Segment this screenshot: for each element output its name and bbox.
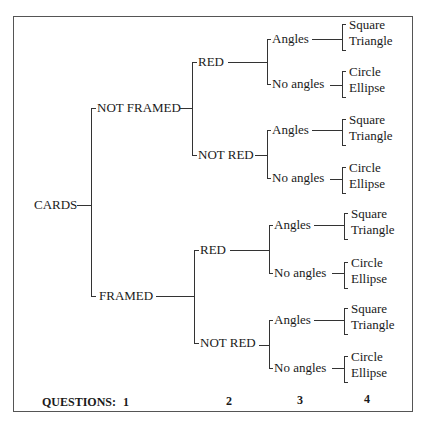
- leaf-square: Square: [349, 113, 385, 127]
- bracket: [342, 24, 346, 25]
- connector: [194, 250, 195, 343]
- connector: [267, 130, 271, 131]
- node-framed: FRAMED: [99, 289, 153, 303]
- connector: [267, 130, 268, 178]
- bracket: [344, 308, 348, 309]
- bracket: [342, 167, 346, 168]
- connector: [194, 343, 199, 344]
- bracket: [342, 193, 346, 194]
- connector: [332, 273, 344, 274]
- node-no-angles: No angles: [274, 266, 326, 280]
- connector: [330, 85, 342, 86]
- question-number-4: 4: [364, 392, 370, 406]
- node-red: RED: [200, 243, 226, 257]
- leaf-triangle: Triangle: [351, 318, 395, 332]
- leaf-circle: Circle: [349, 65, 381, 79]
- bracket: [344, 382, 348, 383]
- decision-tree-diagram: CARDS NOT FRAMED FRAMED RED NOT RED RED …: [0, 0, 428, 429]
- node-angles: Angles: [272, 32, 309, 46]
- node-no-angles: No angles: [274, 361, 326, 375]
- connector: [230, 250, 269, 251]
- node-not-framed: NOT FRAMED: [97, 101, 181, 115]
- bracket: [344, 262, 348, 263]
- bracket: [342, 71, 346, 72]
- leaf-ellipse: Ellipse: [349, 81, 385, 95]
- node-no-angles: No angles: [272, 171, 324, 185]
- connector: [269, 320, 273, 321]
- connector: [194, 250, 199, 251]
- bracket: [344, 239, 348, 240]
- node-red: RED: [198, 55, 224, 69]
- connector: [269, 368, 273, 369]
- questions-label: QUESTIONS:: [42, 395, 116, 409]
- bracket: [344, 308, 345, 334]
- connector: [259, 345, 269, 346]
- node-not-red: NOT RED: [198, 148, 254, 162]
- connector: [269, 320, 270, 368]
- connector: [91, 108, 96, 109]
- connector: [91, 296, 96, 297]
- leaf-square: Square: [351, 207, 387, 221]
- leaf-square: Square: [349, 18, 385, 32]
- leaf-ellipse: Ellipse: [349, 177, 385, 191]
- bracket: [344, 213, 345, 239]
- question-number-3: 3: [297, 393, 303, 407]
- node-angles: Angles: [274, 313, 311, 327]
- connector: [267, 178, 271, 179]
- connector: [312, 130, 342, 131]
- bracket: [342, 71, 343, 97]
- connector: [269, 273, 273, 274]
- leaf-ellipse: Ellipse: [351, 272, 387, 286]
- bracket: [342, 97, 346, 98]
- question-number-1: 1: [123, 395, 129, 409]
- connector: [269, 225, 270, 273]
- bracket: [342, 145, 346, 146]
- question-number-2: 2: [226, 394, 232, 408]
- bracket: [344, 334, 348, 335]
- leaf-circle: Circle: [351, 256, 383, 270]
- bracket: [342, 24, 343, 50]
- bracket: [344, 288, 348, 289]
- bracket: [342, 119, 343, 145]
- leaf-circle: Circle: [349, 161, 381, 175]
- bracket: [342, 50, 346, 51]
- node-angles: Angles: [272, 123, 309, 137]
- connector: [269, 225, 273, 226]
- connector: [192, 62, 193, 155]
- leaf-triangle: Triangle: [351, 223, 395, 237]
- node-no-angles: No angles: [272, 77, 324, 91]
- connector: [314, 320, 344, 321]
- connector: [330, 179, 342, 180]
- connector: [180, 108, 192, 109]
- node-angles: Angles: [274, 218, 311, 232]
- bracket: [344, 356, 345, 382]
- connector: [228, 62, 267, 63]
- bracket: [342, 119, 346, 120]
- leaf-ellipse: Ellipse: [351, 366, 387, 380]
- bracket: [344, 213, 348, 214]
- leaf-triangle: Triangle: [349, 34, 393, 48]
- connector: [267, 39, 271, 40]
- connector: [255, 155, 267, 156]
- connector: [192, 62, 197, 63]
- connector: [192, 155, 197, 156]
- leaf-square: Square: [351, 302, 387, 316]
- bracket: [344, 262, 345, 288]
- leaf-circle: Circle: [351, 350, 383, 364]
- node-root: CARDS: [34, 198, 77, 212]
- connector: [312, 39, 342, 40]
- connector: [91, 108, 92, 296]
- connector: [314, 225, 344, 226]
- node-not-red: NOT RED: [200, 336, 256, 350]
- connector: [332, 368, 344, 369]
- connector: [156, 296, 194, 297]
- connector: [77, 205, 91, 206]
- bracket: [342, 167, 343, 193]
- leaf-triangle: Triangle: [349, 129, 393, 143]
- bracket: [344, 356, 348, 357]
- connector: [267, 84, 271, 85]
- connector: [267, 39, 268, 84]
